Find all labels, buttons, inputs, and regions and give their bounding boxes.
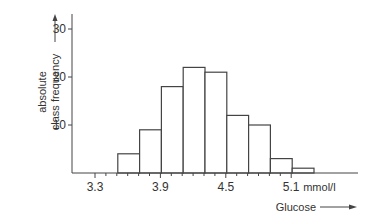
histogram-bar (161, 87, 183, 173)
histogram-bar (227, 115, 249, 173)
x-tick-label: 3.9 (152, 180, 169, 194)
histogram-bar (118, 154, 140, 173)
histogram-bar (270, 159, 292, 173)
histogram-bar (205, 72, 227, 173)
histogram-bar (292, 168, 314, 173)
histogram-bar (183, 67, 205, 173)
x-axis-ticks: 3.33.94.55.1 (87, 173, 300, 194)
x-tick-label: 5.1 (283, 180, 300, 194)
x-axis-label: Glucose (276, 201, 316, 213)
x-axis-arrow-icon (320, 205, 357, 210)
x-tick-label: 4.5 (217, 180, 234, 194)
x-tick-label: 3.3 (87, 180, 104, 194)
y-axis-label-line1: absolute (36, 71, 48, 113)
x-axis-unit: mmol/l (303, 181, 335, 193)
y-axis-label-line2: class frequency (49, 53, 61, 130)
histogram-bar (249, 125, 271, 173)
histogram-bars (118, 67, 314, 173)
glucose-histogram: 102030 3.33.94.55.1 absolute class frequ… (0, 0, 379, 224)
histogram-bar (140, 130, 162, 173)
